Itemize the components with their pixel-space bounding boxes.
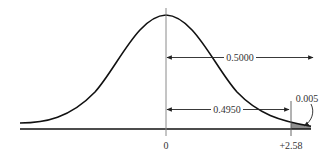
normal-distribution-diagram: 0.5000 0.4950 0.005 0 +2.58 — [0, 0, 335, 163]
tail-leader-arrow — [304, 104, 313, 126]
mean-axis-label: 0 — [164, 140, 169, 151]
critical-value-axis-label: +2.58 — [279, 140, 302, 151]
right-half-area-label: 0.5000 — [226, 52, 254, 63]
mean-to-critical-area-label: 0.4950 — [213, 104, 241, 115]
tail-area-label: 0.005 — [296, 93, 319, 104]
